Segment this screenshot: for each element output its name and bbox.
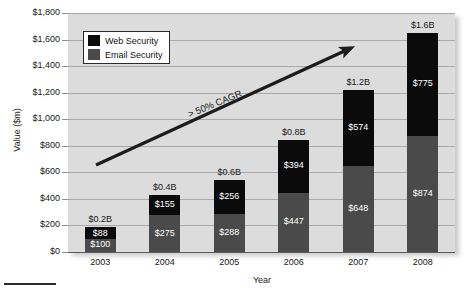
bar-value-label-email-security: $648 (343, 203, 374, 213)
bar-segment-email-security: $288 (214, 214, 245, 252)
bar-segment-web-security: $775 (407, 33, 438, 136)
y-tick-label: $200 (6, 219, 60, 229)
bar-value-label-web-security: $155 (149, 199, 180, 209)
bar-value-label-web-security: $775 (407, 78, 438, 88)
y-tick-mark (62, 119, 68, 120)
y-tick-mark (62, 199, 68, 200)
x-tick-label: 2006 (269, 257, 319, 267)
y-tick-mark (62, 13, 68, 14)
y-tick-mark (62, 172, 68, 173)
bar-value-label-email-security: $275 (149, 228, 180, 238)
x-tick-label: 2007 (333, 257, 383, 267)
y-axis-title: Value ($m) (12, 90, 22, 170)
gridline (68, 66, 455, 67)
x-tick-label: 2008 (398, 257, 448, 267)
bar-total-label: $0.6B (205, 167, 254, 177)
legend-swatch-web-security (88, 35, 100, 46)
y-tick-label: $1,000 (6, 113, 60, 123)
bar-value-label-web-security: $394 (278, 160, 309, 170)
gridline (68, 119, 455, 120)
x-tick-label: 2004 (140, 257, 190, 267)
y-tick-label: $800 (6, 140, 60, 150)
bar-segment-web-security: $88 (85, 227, 116, 239)
bar-value-label-web-security: $574 (343, 122, 374, 132)
gridline (68, 93, 455, 94)
bar-group: $88$100$0.2B (85, 227, 116, 252)
gridline (68, 13, 455, 14)
bar-value-label-email-security: $100 (85, 239, 116, 249)
bar-total-label: $1.2B (334, 77, 383, 87)
legend-item-web-security: Web Security (88, 35, 163, 46)
y-tick-label: $1,200 (6, 87, 60, 97)
y-tick-mark (62, 66, 68, 67)
legend-item-email-security: Email Security (88, 49, 163, 60)
legend-label-web-security: Web Security (105, 36, 158, 46)
x-tick-label: 2005 (204, 257, 254, 267)
bar-segment-email-security: $874 (407, 136, 438, 252)
bar-value-label-email-security: $288 (214, 227, 245, 237)
x-tick-label: 2003 (75, 257, 125, 267)
gridline (68, 225, 455, 226)
y-tick-label: $1,400 (6, 60, 60, 70)
y-tick-mark (62, 93, 68, 94)
footer-rule (4, 283, 56, 285)
y-tick-mark (62, 252, 68, 253)
bar-value-label-web-security: $256 (214, 191, 245, 201)
bar-segment-web-security: $256 (214, 180, 245, 214)
legend-label-email-security: Email Security (105, 50, 163, 60)
y-tick-label: $1,600 (6, 34, 60, 44)
stacked-bar-chart: Value ($m) $0$200$400$600$800$1,000$1,20… (0, 0, 471, 293)
bar-total-label: $1.6B (398, 20, 447, 30)
bar-segment-web-security: $155 (149, 195, 180, 216)
bar-value-label-web-security: $88 (85, 228, 116, 238)
y-tick-mark (62, 146, 68, 147)
bar-value-label-email-security: $447 (278, 216, 309, 226)
bar-segment-email-security: $648 (343, 166, 374, 252)
bar-group: $775$874$1.6B (407, 33, 438, 252)
gridline (68, 199, 455, 200)
bar-segment-email-security: $447 (278, 193, 309, 252)
bar-total-label: $0.4B (140, 182, 189, 192)
bar-value-label-email-security: $874 (407, 188, 438, 198)
legend-swatch-email-security (88, 49, 100, 60)
y-tick-mark (62, 40, 68, 41)
bar-segment-email-security: $100 (85, 239, 116, 252)
gridline (68, 146, 455, 147)
bar-group: $256$288$0.6B (214, 180, 245, 252)
y-tick-label: $0 (6, 246, 60, 256)
bar-group: $574$648$1.2B (343, 90, 374, 252)
y-tick-label: $400 (6, 193, 60, 203)
bar-segment-web-security: $574 (343, 90, 374, 166)
x-axis-line (68, 252, 455, 253)
bar-group: $394$447$0.8B (278, 140, 309, 252)
y-tick-label: $1,800 (6, 7, 60, 17)
bar-group: $155$275$0.4B (149, 195, 180, 252)
x-axis-title: Year (68, 275, 456, 285)
bar-segment-web-security: $394 (278, 140, 309, 192)
chart-legend: Web Security Email Security (83, 31, 170, 64)
bar-segment-email-security: $275 (149, 215, 180, 252)
y-tick-label: $600 (6, 166, 60, 176)
bar-total-label: $0.2B (76, 214, 125, 224)
y-tick-mark (62, 225, 68, 226)
bar-total-label: $0.8B (269, 127, 318, 137)
gridline (68, 172, 455, 173)
